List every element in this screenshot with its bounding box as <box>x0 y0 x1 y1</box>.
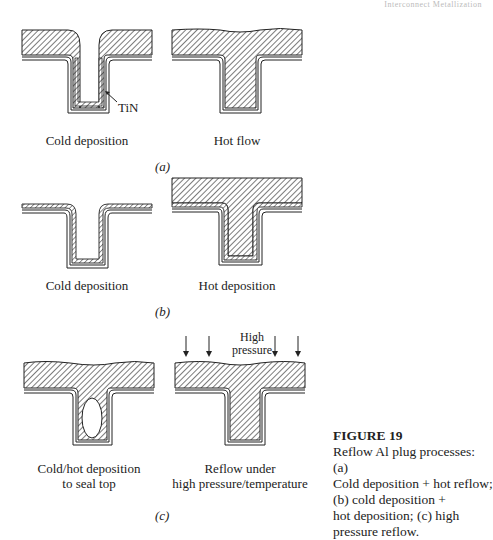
panel-a-left-label: Cold deposition <box>22 133 152 148</box>
caption-line-1: Reflow Al plug processes: (a) <box>333 444 475 475</box>
panel-b-cold-deposition-diagram <box>22 204 152 268</box>
panel-c-right-line2: high pressure/temperature <box>172 476 307 491</box>
panel-b-hot-deposition-diagram <box>172 178 302 265</box>
tin-annotation: TiN <box>118 100 148 115</box>
panel-c-right-line1: Reflow under <box>204 461 275 476</box>
panel-c-left-line2: to seal top <box>62 476 115 491</box>
figure-number: FIGURE 19 <box>333 428 493 444</box>
panel-a-letter: (a) <box>155 159 170 175</box>
caption-line-4: hot deposition; (c) high <box>333 508 459 523</box>
panel-c-left-line1: Cold/hot deposition <box>38 461 141 476</box>
caption-line-5: pressure reflow. <box>333 524 419 539</box>
panel-a-hot-flow-diagram <box>172 29 302 114</box>
panel-c-seal-top-diagram <box>24 362 154 446</box>
caption-line-2: Cold deposition + hot reflow; <box>333 476 493 491</box>
panel-a-right-label: Hot flow <box>172 133 302 148</box>
high-pressure-line1: High <box>240 330 264 344</box>
void-ellipse <box>82 398 102 438</box>
panel-c-right-label: Reflow under high pressure/temperature <box>165 461 315 491</box>
figure-caption: FIGURE 19 Reflow Al plug processes: (a) … <box>333 428 493 540</box>
high-pressure-label: High pressure <box>222 331 282 357</box>
panel-b-right-label: Hot deposition <box>172 278 302 293</box>
high-pressure-line2: pressure <box>232 343 272 357</box>
caption-line-3: (b) cold deposition + <box>333 492 446 507</box>
panel-b-left-label: Cold deposition <box>22 278 152 293</box>
panel-b-letter: (b) <box>155 304 170 320</box>
panel-c-letter: (c) <box>155 508 169 524</box>
panel-c-left-label: Cold/hot deposition to seal top <box>14 461 164 491</box>
